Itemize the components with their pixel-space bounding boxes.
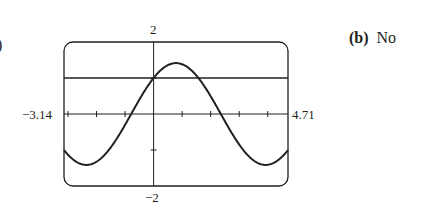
graph-plot — [0, 0, 422, 220]
